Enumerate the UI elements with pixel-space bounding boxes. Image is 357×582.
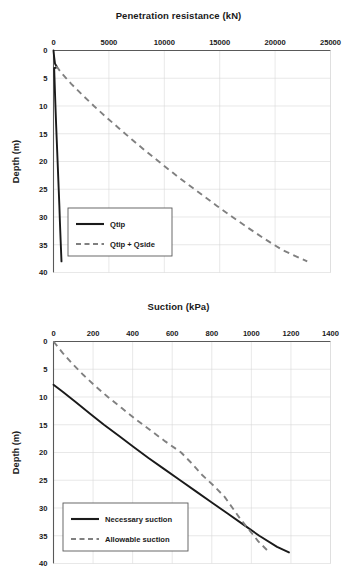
y-tick-label: 5 <box>43 365 48 374</box>
legend-label: Qtip <box>110 220 126 229</box>
y-tick-label: 0 <box>43 337 47 346</box>
x-tick-label: 600 <box>166 329 179 338</box>
x-tick-label: 5000 <box>100 38 117 47</box>
legend-label: Necessary suction <box>105 515 172 524</box>
y-tick-label: 40 <box>39 559 47 568</box>
legend-label: Qtip + Qside <box>110 240 155 249</box>
x-tick-label: 200 <box>87 329 100 338</box>
y-tick-label: 35 <box>39 241 48 250</box>
x-tick-label: 400 <box>126 329 139 338</box>
series-line-solid <box>54 51 62 262</box>
y-tick-label: 25 <box>39 476 48 485</box>
legend-label: Allowable suction <box>105 535 170 544</box>
x-tick-label: 1400 <box>322 329 339 338</box>
penetration-resistance-plot: 0500010000150002000025000051015202530354… <box>0 0 357 291</box>
y-tick-label: 15 <box>39 130 48 139</box>
x-tick-label: 10000 <box>154 38 175 47</box>
x-tick-label: 0 <box>51 38 55 47</box>
y-tick-label: 40 <box>39 268 47 277</box>
y-tick-label: 35 <box>39 532 48 541</box>
y-axis-label: Depth (m) <box>11 140 21 183</box>
x-tick-label: 1200 <box>282 329 299 338</box>
y-tick-label: 10 <box>39 102 47 111</box>
x-tick-label: 0 <box>51 329 55 338</box>
y-tick-label: 20 <box>39 448 47 457</box>
x-tick-label: 20000 <box>265 38 286 47</box>
y-tick-label: 0 <box>43 46 47 55</box>
y-tick-label: 15 <box>39 421 48 430</box>
x-tick-label: 1000 <box>243 329 260 338</box>
x-tick-label: 800 <box>205 329 218 338</box>
x-tick-label: 25000 <box>320 38 341 47</box>
y-tick-label: 25 <box>39 185 48 194</box>
y-tick-label: 30 <box>39 504 47 513</box>
suction-panel: Suction (kPa) 02004006008001000120014000… <box>0 291 357 582</box>
suction-plot: 0200400600800100012001400051015202530354… <box>0 291 357 582</box>
y-tick-label: 20 <box>39 157 47 166</box>
y-tick-label: 30 <box>39 213 47 222</box>
penetration-resistance-panel: Penetration resistance (kN) 050001000015… <box>0 0 357 291</box>
y-axis-label: Depth (m) <box>11 431 21 474</box>
x-tick-label: 15000 <box>209 38 230 47</box>
y-tick-label: 10 <box>39 393 47 402</box>
y-tick-label: 5 <box>43 74 48 83</box>
